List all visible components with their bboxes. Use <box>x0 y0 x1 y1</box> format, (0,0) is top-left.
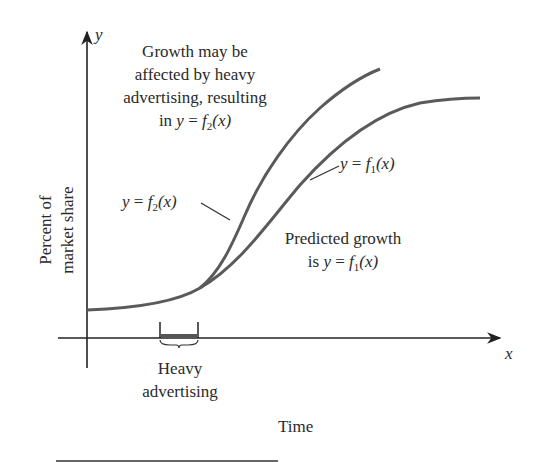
var-y: y <box>176 111 184 130</box>
f2-label: y = f2(x) <box>122 190 177 219</box>
f2-note-line1: Growth may be <box>100 40 290 63</box>
f2-note-line3: advertising, resulting <box>100 86 290 109</box>
f2-leader-line <box>201 203 230 220</box>
ad-brace <box>160 340 198 348</box>
y-axis-label: Percent of market share <box>22 150 92 310</box>
eq: = <box>130 192 148 211</box>
eq: = <box>348 154 366 173</box>
eq: = <box>331 252 349 271</box>
eq: = <box>184 111 202 130</box>
f1-note-line1: Predicted growth <box>268 227 418 250</box>
heavy-advertising-label: Heavy advertising <box>130 357 230 403</box>
f2-note-line2: affected by heavy <box>100 63 290 86</box>
f1-note-line2: is y = f1(x) <box>268 250 418 279</box>
arg: (x) <box>158 192 177 211</box>
f2-note: Growth may be affected by heavy advertis… <box>100 40 290 138</box>
var-y: y <box>122 192 130 211</box>
y-axis-label-line2: market share <box>57 186 79 273</box>
f2-note-line4: in y = f2(x) <box>100 109 290 138</box>
ad-period-bar <box>161 334 197 338</box>
heavy-line2: advertising <box>130 380 230 403</box>
arg: (x) <box>376 154 395 173</box>
y-axis-label-line1: Percent of <box>35 186 57 273</box>
x-axis-label: Time <box>278 415 313 438</box>
text: is <box>308 252 324 271</box>
text: in <box>159 111 176 130</box>
x-axis-symbol: x <box>505 342 513 365</box>
arg: (x) <box>212 111 231 130</box>
f1-note: Predicted growth is y = f1(x) <box>268 227 418 279</box>
var-y: y <box>323 252 331 271</box>
var-y: y <box>340 154 348 173</box>
arg: (x) <box>359 252 378 271</box>
heavy-line1: Heavy <box>130 357 230 380</box>
f1-label: y = f1(x) <box>340 152 395 181</box>
